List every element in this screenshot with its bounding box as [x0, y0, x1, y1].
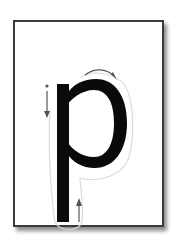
arrow-up-icon	[76, 198, 82, 222]
letter-p-bowl	[66, 79, 127, 168]
arrow-curve-clockwise-icon	[85, 70, 117, 80]
letter-p-illustration	[0, 0, 178, 249]
arrow-down-icon	[44, 84, 50, 118]
